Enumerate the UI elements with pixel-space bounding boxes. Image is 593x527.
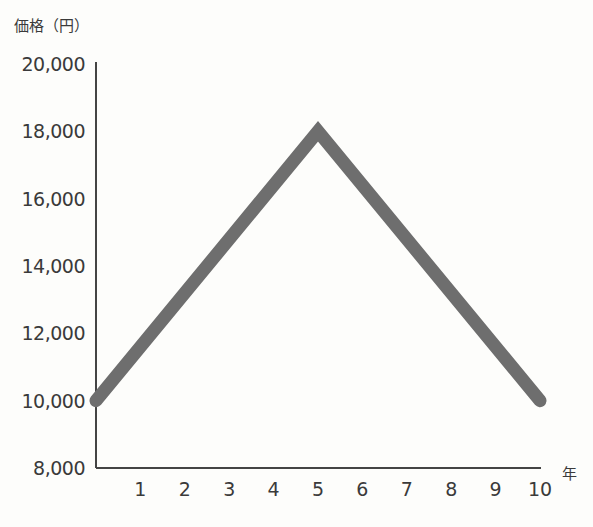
- x-tick-label: 10: [528, 478, 552, 500]
- x-axis-unit: 年: [562, 462, 577, 483]
- x-tick-label: 4: [268, 478, 280, 500]
- y-tick-label: 12,000: [22, 322, 85, 344]
- y-axis-title: 価格（円）: [14, 14, 89, 35]
- x-tick-label: 3: [223, 478, 235, 500]
- line-chart: [0, 0, 593, 527]
- price-line: [96, 131, 540, 400]
- x-tick-label: 5: [312, 478, 324, 500]
- y-tick-label: 14,000: [22, 255, 85, 277]
- x-tick-label: 9: [490, 478, 502, 500]
- y-tick-label: 8,000: [33, 457, 85, 479]
- y-tick-label: 10,000: [22, 390, 85, 412]
- x-tick-label: 2: [179, 478, 191, 500]
- x-tick-label: 6: [356, 478, 368, 500]
- x-tick-label: 8: [445, 478, 457, 500]
- x-tick-label: 7: [401, 478, 413, 500]
- x-tick-label: 1: [134, 478, 146, 500]
- y-tick-label: 18,000: [22, 120, 85, 142]
- y-tick-label: 16,000: [22, 188, 85, 210]
- y-tick-label: 20,000: [22, 53, 85, 75]
